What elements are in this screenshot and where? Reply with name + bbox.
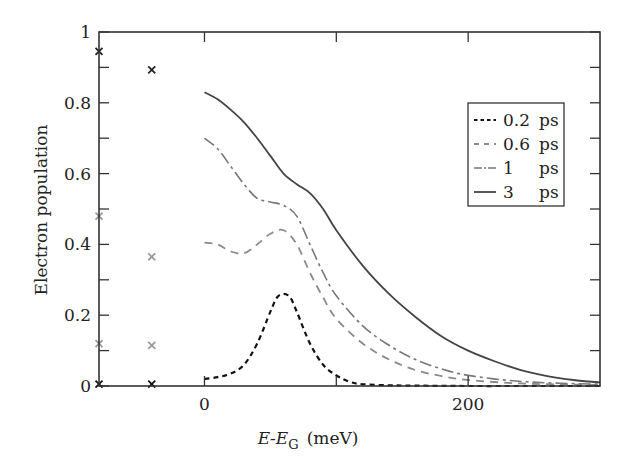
y-tick-label: 0.8 — [64, 93, 91, 113]
y-axis-title: Electron population — [31, 124, 51, 295]
legend-unit: ps — [539, 110, 559, 130]
x-tick-label: 0 — [199, 394, 210, 414]
legend-unit: ps — [539, 158, 559, 178]
legend-unit: ps — [539, 182, 559, 202]
legend: 0.2ps0.6ps1ps3ps — [468, 103, 564, 206]
cross-marker-icon — [148, 66, 155, 73]
y-tick-label: 0.6 — [64, 164, 91, 184]
cross-marker-icon — [148, 342, 155, 349]
legend-value: 0.2 — [503, 110, 530, 130]
tick-layer: 00.20.40.60.810200 — [64, 22, 600, 414]
x-axis-title-unit: (meV) — [307, 428, 359, 448]
x-axis-title: E-EG(meV) — [257, 428, 359, 452]
y-tick-label: 0.4 — [64, 234, 91, 254]
x-axis-title-eg: E — [275, 428, 289, 448]
legend-unit: ps — [539, 134, 559, 154]
y-tick-label: 0 — [80, 376, 91, 396]
legend-value: 0.6 — [503, 134, 530, 154]
y-tick-label: 1 — [80, 22, 91, 42]
x-axis-title-sub: G — [288, 437, 298, 452]
x-tick-label: 200 — [452, 394, 484, 414]
legend-value: 3 — [503, 182, 514, 202]
series-line-0-2-ps — [204, 294, 600, 386]
y-tick-label: 0.2 — [64, 305, 91, 325]
cross-marker-icon — [148, 253, 155, 260]
x-axis-title-e: E — [257, 428, 271, 448]
chart-canvas: 00.20.40.60.810200 Electron population E… — [0, 0, 629, 472]
marker-layer — [96, 48, 156, 388]
series-line-0-6-ps — [204, 230, 600, 385]
legend-value: 1 — [503, 158, 514, 178]
